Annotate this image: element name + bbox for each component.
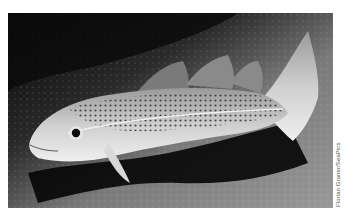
fish-illustration: [8, 13, 333, 208]
photo-credit: Florian Graner/SeaPics: [335, 142, 341, 207]
cod-photo: [8, 13, 333, 208]
